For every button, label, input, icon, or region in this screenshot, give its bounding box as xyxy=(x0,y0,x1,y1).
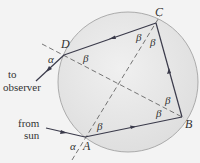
diagram-canvas: C D B A α β β β β β β α to observer from… xyxy=(0,0,200,163)
raindrop-diagram: C D B A α β β β β β β α to observer from… xyxy=(0,0,200,163)
from-sun-label-line2: sun xyxy=(24,129,40,141)
angle-alpha-a: α xyxy=(70,140,76,152)
point-label-d: D xyxy=(60,37,70,51)
angle-beta-c-left: β xyxy=(135,31,142,43)
angle-beta-d: β xyxy=(82,52,89,64)
point-label-b: B xyxy=(185,117,193,131)
angle-beta-c-right: β xyxy=(149,36,156,48)
point-label-c: C xyxy=(155,5,164,19)
angle-beta-b-upper: β xyxy=(164,94,171,106)
angle-beta-a: β xyxy=(96,120,103,132)
to-observer-label-line2: observer xyxy=(3,81,41,93)
angle-alpha-d: α xyxy=(48,53,54,65)
to-observer-label-line1: to xyxy=(8,68,17,80)
from-sun-label-line1: from xyxy=(18,117,40,129)
point-label-a: A xyxy=(82,139,91,153)
angle-beta-b-lower: β xyxy=(155,107,162,119)
